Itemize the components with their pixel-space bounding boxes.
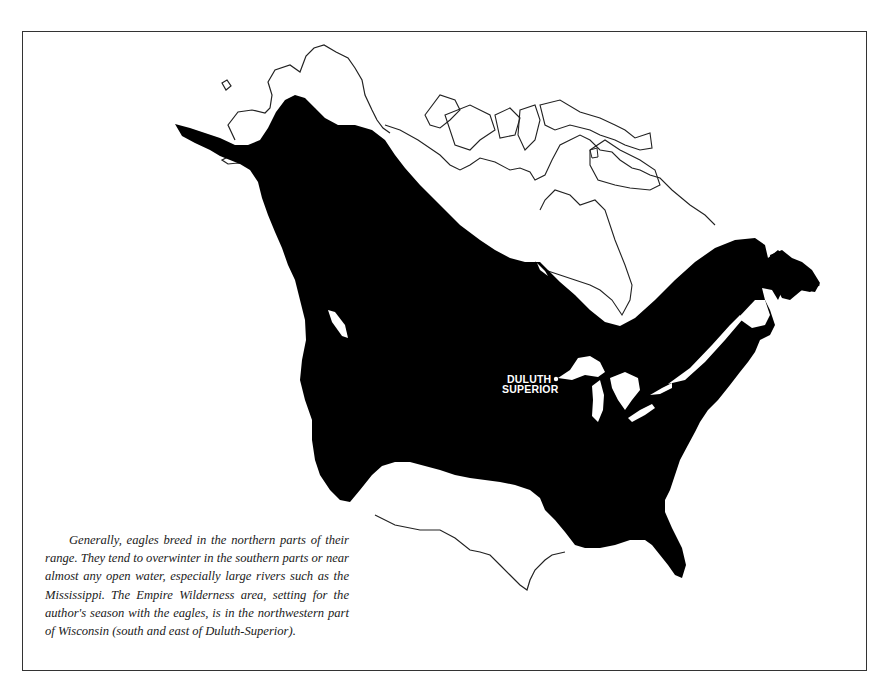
baffin-island-outline	[590, 140, 660, 190]
mexico-outline	[375, 515, 565, 590]
lake-outline	[590, 148, 598, 158]
island-outline	[222, 80, 231, 90]
duluth-superior-marker-dot	[554, 377, 558, 381]
arctic-island-5	[540, 100, 652, 150]
arctic-island-2	[445, 105, 495, 150]
arctic-island-4	[518, 105, 540, 150]
map-caption: Generally, eagles breed in the northern …	[45, 531, 349, 640]
city-label-superior: SUPERIOR	[502, 384, 558, 394]
arctic-island-3	[495, 108, 520, 138]
